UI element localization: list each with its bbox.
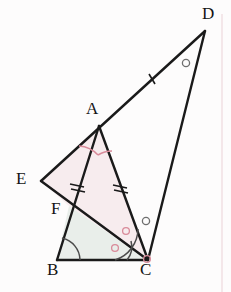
circle-marker-at-D <box>182 59 189 66</box>
segment-D-C <box>148 31 205 260</box>
geometry-canvas <box>0 0 231 292</box>
vertex-label-C: C <box>140 261 151 278</box>
vertex-label-E: E <box>16 170 26 187</box>
circle-marker-near-C-upper <box>142 217 149 224</box>
vertex-label-D: D <box>202 5 214 22</box>
segment-E-D <box>41 31 205 181</box>
vertex-label-A: A <box>86 100 98 117</box>
vertex-label-F: F <box>51 200 60 217</box>
vertex-label-B: B <box>47 261 58 278</box>
geometry-figure: A B C D E F <box>0 0 231 292</box>
